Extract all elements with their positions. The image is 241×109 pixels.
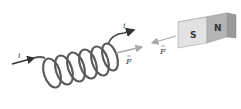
force-coil-label: F xyxy=(125,57,132,66)
current-out-label: i xyxy=(123,21,126,30)
current-in-label: i xyxy=(18,51,21,60)
bar-magnet: S N xyxy=(178,13,236,48)
outgoing-wire xyxy=(108,30,134,44)
incoming-wire xyxy=(12,57,45,64)
north-pole-label: N xyxy=(214,23,222,33)
solenoid-coil xyxy=(40,42,121,90)
diagram-canvas: i i F F S N xyxy=(0,0,241,109)
force-arrow-coil xyxy=(116,47,142,53)
force-magnet-label: F xyxy=(159,47,166,56)
south-pole-label: S xyxy=(190,30,196,40)
force-arrow-magnet xyxy=(152,36,176,43)
